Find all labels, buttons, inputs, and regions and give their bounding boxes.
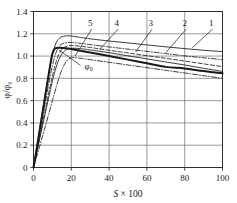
curve-label-1: 1 [209,18,214,28]
x-axis-tick-labels: 020406080100 [31,173,230,183]
leader-line-3 [136,29,153,52]
axis-ticks [30,12,222,171]
curve-label-2: 2 [182,18,187,28]
curve-phi0 [34,48,223,168]
chart-canvas: 020406080100 00.20.40.60.81.01.21.4 1234… [0,0,237,203]
x-tick-label: 0 [31,173,36,183]
curve-2 [34,42,223,167]
leader-line-2 [166,29,186,53]
curve-5 [34,58,223,168]
y-tick-label: 0.2 [16,140,27,150]
curve-label-5: 5 [88,18,93,28]
annotation-phi0: φ₀ [85,61,93,71]
x-tick-label: 20 [67,173,77,183]
y-axis-title: φ/φ₀ [2,82,12,99]
y-tick-label: 0.8 [16,74,28,84]
plot-border [34,12,223,168]
plot-frame [34,12,223,168]
x-tick-label: 80 [180,173,190,183]
x-tick-label: 60 [142,173,152,183]
curve-label-4: 4 [114,18,119,28]
y-axis-tick-labels: 00.20.40.60.81.01.21.4 [16,7,28,173]
curve-label-3: 3 [148,18,153,28]
y-tick-label: 0.6 [16,96,28,106]
y-tick-label: 0.4 [16,118,28,128]
data-curves [34,36,223,168]
x-tick-label: 40 [105,173,115,183]
curve-4 [34,48,223,167]
y-tick-label: 1.2 [16,29,27,39]
y-tick-label: 1.4 [16,7,28,17]
gridlines [34,12,223,168]
x-axis-title: S × 100 [113,189,142,199]
x-tick-label: 100 [216,173,230,183]
curve-3 [34,45,223,167]
callout-leader-lines [59,29,213,65]
y-tick-label: 0 [23,163,28,173]
leader-line-1 [192,29,212,48]
y-tick-label: 1.0 [16,51,28,61]
chart-figure: 020406080100 00.20.40.60.81.01.21.4 1234… [0,0,237,203]
